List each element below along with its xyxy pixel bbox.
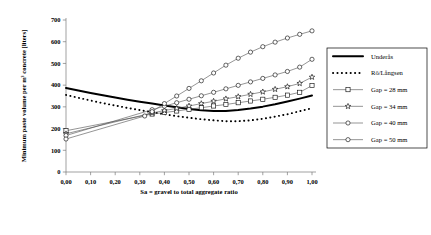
line-chart: 01002003004005006007000,000,100,200,300,… — [0, 0, 431, 235]
data-point-marker — [272, 86, 278, 91]
y-axis-tick-label: 0 — [57, 168, 60, 175]
x-axis-tick-label: 0,00 — [60, 178, 71, 185]
y-axis-tick-label: 600 — [51, 38, 61, 45]
x-axis-tick-label: 1,00 — [306, 178, 317, 185]
data-point-marker — [346, 121, 350, 125]
data-point-marker — [224, 87, 228, 91]
y-axis-tick-label: 200 — [51, 125, 61, 132]
data-point-marker — [236, 56, 240, 60]
data-point-marker — [224, 63, 228, 67]
data-point-marker — [298, 32, 302, 36]
data-point-marker — [224, 102, 228, 106]
data-point-marker — [162, 102, 166, 106]
data-point-marker — [236, 83, 240, 87]
x-axis-tick-label: 0,30 — [134, 178, 145, 185]
x-axis-tick-label: 0,60 — [208, 178, 219, 185]
data-point-marker — [212, 71, 216, 75]
data-point-marker — [175, 94, 179, 98]
data-point-marker — [248, 50, 252, 54]
x-axis-tick-label: 0,20 — [110, 178, 121, 185]
data-point-marker — [310, 57, 314, 61]
x-axis-title: Sa = gravel to total aggregate ratio — [140, 188, 238, 195]
y-axis-tick-label: 100 — [51, 147, 61, 154]
data-point-marker — [175, 101, 179, 105]
x-axis-tick-label: 0,70 — [233, 178, 244, 185]
data-point-marker — [310, 83, 314, 87]
y-axis-tick-label: 700 — [51, 16, 61, 23]
data-point-marker — [212, 104, 216, 108]
data-point-marker — [273, 40, 277, 44]
data-point-marker — [150, 110, 154, 114]
data-point-marker — [285, 69, 289, 73]
data-point-marker — [235, 94, 241, 99]
data-point-marker — [297, 81, 303, 86]
data-point-marker — [248, 91, 254, 96]
data-point-marker — [236, 101, 240, 105]
data-point-marker — [273, 73, 277, 77]
y-axis-tick-label: 400 — [51, 81, 61, 88]
data-point-marker — [346, 138, 350, 142]
data-point-marker — [143, 114, 147, 118]
x-axis-tick-label: 0,80 — [257, 178, 268, 185]
data-point-marker — [260, 89, 266, 94]
data-point-marker — [285, 84, 291, 89]
data-point-marker — [248, 80, 252, 84]
data-point-marker — [248, 99, 252, 103]
legend-item-label: Gap = 50 mm — [371, 136, 408, 143]
series-4 — [63, 74, 315, 136]
y-axis-tick-label: 500 — [51, 60, 61, 67]
data-point-marker — [298, 65, 302, 69]
data-point-marker — [261, 45, 265, 49]
data-point-marker — [64, 137, 68, 141]
data-point-marker — [211, 98, 217, 103]
legend-item-label: Underås — [371, 53, 393, 60]
data-point-marker — [309, 74, 315, 79]
data-point-marker — [187, 97, 191, 101]
legend: UnderåsRö/LångsenGap = 28 mmGap = 34 mmG… — [327, 48, 427, 148]
data-point-marker — [212, 90, 216, 94]
x-axis-tick-label: 0,40 — [159, 178, 170, 185]
x-axis-tick-label: 0,90 — [282, 178, 293, 185]
y-axis-title: Minimum paste volume per m³ concrete [li… — [20, 30, 28, 162]
data-point-marker — [285, 36, 289, 40]
x-axis-tick-label: 0,10 — [85, 178, 96, 185]
data-point-marker — [273, 95, 277, 99]
data-point-marker — [285, 93, 289, 97]
data-point-marker — [310, 29, 314, 33]
data-point-marker — [261, 97, 265, 101]
legend-item-label: Gap = 34 mm — [371, 103, 408, 110]
legend-item-label: Rö/Långsen — [371, 69, 404, 76]
data-point-marker — [298, 90, 302, 94]
data-point-marker — [199, 94, 203, 98]
series-6 — [64, 29, 314, 141]
chart-container: 01002003004005006007000,000,100,200,300,… — [0, 0, 431, 235]
x-axis-tick-label: 0,50 — [183, 178, 194, 185]
legend-box — [327, 48, 427, 148]
legend-item-label: Gap = 40 mm — [371, 119, 408, 126]
data-point-marker — [199, 106, 203, 110]
data-point-marker — [199, 79, 203, 83]
y-axis-tick-label: 300 — [51, 103, 61, 110]
data-point-marker — [346, 88, 350, 92]
data-point-marker — [261, 76, 265, 80]
series-line — [66, 31, 312, 139]
legend-item-label: Gap = 28 mm — [371, 86, 408, 93]
data-point-marker — [199, 101, 205, 106]
data-point-marker — [187, 86, 191, 90]
plot-area: 01002003004005006007000,000,100,200,300,… — [20, 16, 427, 195]
data-point-marker — [223, 96, 229, 101]
